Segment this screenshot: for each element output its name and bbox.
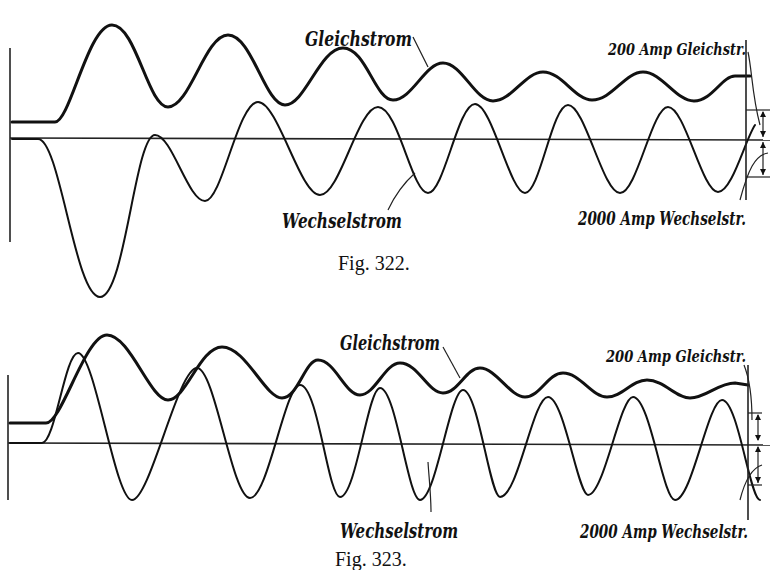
dc-leader (443, 347, 460, 378)
ac-scale-label: 2000 Amp Wechselstr. (577, 208, 746, 229)
dc-scale-label: 200 Amp Gleichstr. (605, 346, 746, 366)
oscillogram-figures: Gleichstrom Wechselstrom 200 Amp Gleichs… (0, 0, 774, 570)
dc-curve-label: Gleichstrom (305, 26, 412, 51)
scale-bracket (740, 365, 762, 520)
figure-caption: Fig. 322. (338, 252, 410, 275)
ac-scale-label: 2000 Amp Wechselstr. (579, 521, 748, 542)
figure-caption: Fig. 323. (335, 548, 407, 570)
ac-curve-label: Wechselstrom (282, 208, 402, 233)
figure-323: Gleichstrom Wechselstrom 200 Amp Gleichs… (8, 330, 770, 570)
dc-curve-label: Gleichstrom (340, 330, 440, 355)
ac-leader (388, 173, 415, 210)
dc-scale-label: 200 Amp Gleichstr. (607, 39, 746, 59)
ac-curve-label: Wechselstrom (340, 518, 458, 543)
dc-leader (413, 37, 428, 67)
zero-baseline (10, 138, 770, 140)
figure-322: Gleichstrom Wechselstrom 200 Amp Gleichs… (10, 25, 770, 297)
scale-bracket (740, 40, 770, 200)
